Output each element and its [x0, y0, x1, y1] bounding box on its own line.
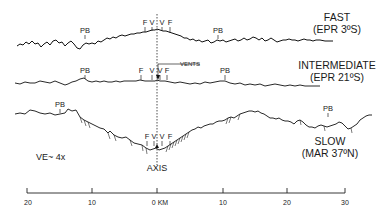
slow-marker-f-left: F [145, 133, 150, 141]
slow-marker-f-right: F [168, 133, 173, 141]
axis-label: AXIS [147, 164, 168, 173]
scale-tick-0-km: 0 KM [152, 199, 168, 206]
vents-label: VENTS [180, 61, 200, 67]
fast-subtitle-label: (EPR 3ºS) [304, 24, 370, 35]
slow-title: SLOW (MAR 37ºN) [290, 136, 370, 158]
intermediate-marker-pb-left: PB [80, 67, 90, 75]
slow-marker-v-right: V [159, 133, 164, 141]
fast-marker-v-right: V [159, 19, 164, 27]
fast-title: FAST (EPR 3ºS) [304, 12, 370, 34]
fast-marker-v-left: V [149, 19, 154, 27]
intermediate-marker-v-right: V [157, 67, 162, 75]
fast-marker-f-left: F [143, 19, 148, 27]
intermediate-profile-line [15, 78, 320, 86]
intermediate-marker-f-left: F [139, 67, 144, 75]
scale-tick-20-left: 20 [24, 199, 32, 206]
scale-tick-20-right: 20 [283, 199, 291, 206]
scale-tick-10-right: 10 [219, 199, 227, 206]
fast-marker-pb-left: PB [80, 27, 90, 35]
scale-tick-10-left: 10 [88, 199, 96, 206]
intermediate-title: INTERMEDIATE (EPR 21ºS) [282, 60, 384, 82]
slow-title-label: SLOW [290, 136, 370, 147]
fast-title-label: FAST [304, 12, 370, 23]
fast-marker-f-right: F [168, 19, 173, 27]
slow-marker-v-left: V [151, 133, 156, 141]
slow-marker-pb-right: PB [323, 105, 333, 113]
intermediate-marker-pb-right: PB [220, 67, 230, 75]
intermediate-marker-v-left: V [149, 67, 154, 75]
intermediate-title-label: INTERMEDIATE [282, 60, 384, 71]
vertical-exaggeration-label: VE~ 4x [36, 153, 65, 162]
fast-profile-line [17, 29, 333, 49]
slow-marker-pb-left: PB [55, 101, 65, 109]
scale-bar [27, 188, 345, 193]
fast-marker-pb-right: PB [213, 27, 223, 35]
slow-vent-marker [155, 144, 159, 148]
intermediate-marker-f-right: F [165, 67, 170, 75]
slow-subtitle-label: (MAR 37ºN) [290, 148, 370, 159]
scale-tick-30: 30 [341, 199, 349, 206]
intermediate-subtitle-label: (EPR 21ºS) [282, 72, 384, 83]
